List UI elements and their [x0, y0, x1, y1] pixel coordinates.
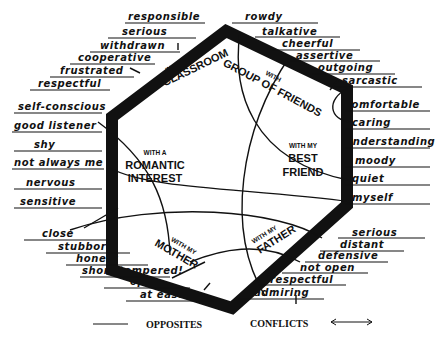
svg-text:good listener: good listener	[14, 120, 97, 131]
svg-text:WITH A: WITH A	[144, 149, 167, 156]
legend: OPPOSITES CONFLICTS	[93, 318, 372, 330]
traits-romantic-interest: self-conscious good listener shy not alw…	[12, 101, 106, 208]
opposites-label: OPPOSITES	[146, 319, 203, 330]
svg-text:sarcastic: sarcastic	[342, 75, 398, 86]
conflicts-label: CONFLICTS	[250, 318, 309, 329]
svg-text:cheerful: cheerful	[282, 38, 333, 49]
svg-text:INTEREST: INTEREST	[128, 172, 183, 184]
svg-text:caring: caring	[352, 117, 391, 128]
svg-text:FRIEND: FRIEND	[283, 166, 324, 178]
svg-text:respectful: respectful	[38, 78, 101, 89]
svg-text:short tempered!: short tempered!	[82, 265, 184, 276]
svg-text:at ease: at ease	[140, 289, 185, 300]
svg-text:not always me: not always me	[14, 157, 103, 168]
svg-text:cooperative: cooperative	[78, 52, 151, 63]
traits-best-friend: comfortable caring understanding moody q…	[345, 99, 435, 204]
svg-text:understanding: understanding	[345, 136, 435, 147]
double-arrow-icon	[331, 319, 372, 325]
svg-text:respectful: respectful	[270, 274, 333, 285]
svg-text:quiet: quiet	[352, 173, 385, 184]
context-classroom: IN THE CLASSROOM	[157, 39, 230, 88]
curve-atease-tick	[204, 283, 210, 290]
self-concept-hexagon-diagram: IN THE CLASSROOM WITH GROUP OF FRIENDS W…	[0, 0, 439, 344]
context-labels: IN THE CLASSROOM WITH GROUP OF FRIENDS W…	[125, 39, 327, 271]
svg-text:withdrawn: withdrawn	[100, 40, 165, 51]
svg-text:frustrated: frustrated	[60, 65, 124, 76]
svg-text:moody: moody	[355, 155, 396, 166]
svg-text:comfortable: comfortable	[345, 99, 420, 110]
svg-text:assertive: assertive	[296, 50, 353, 61]
svg-text:responsible: responsible	[128, 11, 200, 22]
svg-text:defensive: defensive	[318, 250, 378, 261]
svg-text:not open: not open	[300, 262, 355, 273]
svg-text:outgoing: outgoing	[318, 62, 373, 73]
svg-text:honest: honest	[76, 253, 119, 264]
svg-text:stubborn: stubborn	[58, 241, 114, 252]
svg-text:sensitive: sensitive	[20, 196, 76, 207]
svg-text:close: close	[42, 228, 74, 239]
svg-text:ROMANTIC: ROMANTIC	[125, 159, 184, 171]
curve-frustrated-tick	[130, 68, 140, 73]
svg-text:BEST: BEST	[288, 152, 318, 164]
svg-text:nervous: nervous	[26, 177, 76, 188]
svg-text:open: open	[130, 276, 160, 287]
svg-text:serious: serious	[122, 26, 167, 37]
svg-text:admiring: admiring	[254, 287, 309, 298]
context-best-friend: WITH MY BEST FRIEND	[283, 142, 324, 178]
svg-text:myself: myself	[352, 192, 394, 203]
svg-text:distant: distant	[340, 239, 385, 250]
svg-text:rowdy: rowdy	[245, 11, 283, 22]
svg-text:WITH MY: WITH MY	[289, 142, 318, 149]
svg-text:serious: serious	[352, 227, 397, 238]
svg-text:self-conscious: self-conscious	[18, 101, 106, 112]
svg-text:shy: shy	[34, 139, 55, 150]
svg-text:talkative: talkative	[262, 26, 317, 37]
